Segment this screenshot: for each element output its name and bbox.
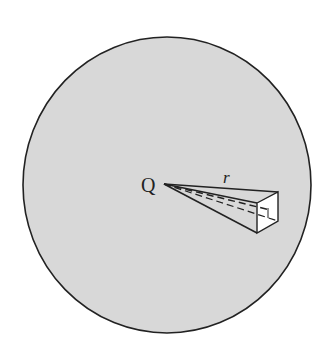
radius-label: r xyxy=(223,168,230,187)
charge-label: Q xyxy=(141,174,156,196)
diagram-canvas: Q r xyxy=(0,0,332,361)
